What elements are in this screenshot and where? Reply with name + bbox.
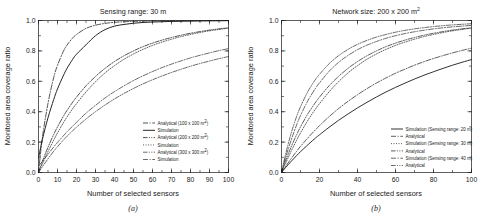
- x-tick-label: 90: [206, 176, 214, 183]
- figure-two-panel-line-charts: Sensing range: 30 m 01020304050607080901…: [0, 0, 486, 218]
- chart-a-ticks: 01020304050607080901000.00.20.40.60.81.0: [26, 17, 234, 183]
- series-line: [39, 49, 229, 166]
- chart-a-svg: Sensing range: 30 m 01020304050607080901…: [0, 0, 243, 218]
- chart-a-caption: (a): [128, 204, 138, 213]
- legend-label: Simulation: [158, 157, 180, 162]
- legend-label: Analytical: [406, 163, 425, 168]
- series-line: [282, 24, 472, 173]
- chart-b-title: Network size: 200 x 200 m2: [332, 6, 420, 16]
- chart-b-ylabel: Monitored area coverage ratio: [246, 47, 255, 146]
- chart-a-legend: Analytical (100 x 100 m2)SimulationAnaly…: [143, 119, 209, 163]
- y-tick-label: 0.8: [26, 47, 36, 54]
- legend-label: Analytical (300 x 300 m2): [158, 148, 209, 155]
- x-tick-label: 20: [73, 176, 81, 183]
- chart-a-xlabel: Number of selected sensors: [87, 189, 179, 198]
- y-tick-label: 0.8: [269, 47, 279, 54]
- y-tick-label: 0.6: [269, 78, 279, 85]
- x-tick-label: 100: [466, 176, 478, 183]
- legend-label: Simulation: [158, 143, 180, 148]
- legend-label: Analytical (100 x 100 m2): [158, 119, 209, 126]
- series-line: [282, 28, 472, 173]
- legend-label: Analytical: [406, 134, 425, 139]
- panel-a: Sensing range: 30 m 01020304050607080901…: [0, 0, 243, 218]
- legend-label: Analytical: [406, 149, 425, 154]
- legend-label: Simulation (Sensing range: 20 m): [406, 127, 473, 132]
- x-tick-label: 60: [149, 176, 157, 183]
- x-tick-label: 80: [187, 176, 195, 183]
- x-tick-label: 80: [430, 176, 438, 183]
- x-tick-label: 100: [223, 176, 235, 183]
- x-tick-label: 0: [280, 176, 284, 183]
- y-tick-label: 0.0: [269, 169, 279, 176]
- y-tick-label: 0.2: [269, 139, 279, 146]
- x-tick-label: 50: [130, 176, 138, 183]
- x-tick-label: 0: [37, 176, 41, 183]
- panel-b: Network size: 200 x 200 m2 0204060801000…: [243, 0, 486, 218]
- x-tick-label: 30: [92, 176, 100, 183]
- chart-a-title: Sensing range: 30 m: [100, 7, 166, 16]
- y-tick-label: 0.4: [269, 108, 279, 115]
- legend-label: Simulation (Sensing range: 30 m): [406, 141, 473, 146]
- x-tick-label: 60: [392, 176, 400, 183]
- chart-b-title-superscript: 2: [417, 6, 420, 12]
- y-tick-label: 1.0: [26, 17, 36, 24]
- legend-label: Simulation (Sensing range: 40 m): [406, 156, 473, 161]
- chart-b-svg: Network size: 200 x 200 m2 0204060801000…: [243, 0, 486, 218]
- series-line: [282, 25, 472, 172]
- legend-label: Simulation: [158, 128, 180, 133]
- y-tick-label: 0.2: [26, 139, 36, 146]
- x-tick-label: 10: [54, 176, 62, 183]
- chart-b-xlabel: Number of selected sensors: [330, 189, 422, 198]
- y-tick-label: 0.4: [26, 108, 36, 115]
- chart-b-caption: (b): [371, 204, 381, 213]
- x-tick-label: 40: [111, 176, 119, 183]
- x-tick-label: 70: [168, 176, 176, 183]
- x-tick-label: 20: [316, 176, 324, 183]
- chart-b-title-text: Network size: 200 x 200 m: [332, 7, 417, 16]
- x-tick-label: 40: [354, 176, 362, 183]
- legend-label: Analytical (200 x 200 m2): [158, 133, 209, 140]
- y-tick-label: 1.0: [269, 17, 279, 24]
- chart-b-legend: Simulation (Sensing range: 20 m)Analytic…: [391, 127, 473, 169]
- series-line: [39, 57, 229, 173]
- y-tick-label: 0.6: [26, 78, 36, 85]
- series-line: [282, 28, 472, 172]
- chart-b-plot-area: [282, 24, 472, 173]
- y-tick-label: 0.0: [26, 169, 36, 176]
- chart-a-ylabel: Monitored area coverage ratio: [3, 47, 12, 146]
